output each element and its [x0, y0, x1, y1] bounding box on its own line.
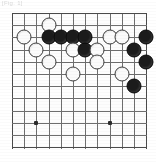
- grid-line-horizontal: [12, 98, 147, 99]
- grid-line-horizontal: [12, 135, 147, 136]
- grid-line-horizontal: [12, 147, 147, 148]
- black-stone[interactable]: [127, 42, 142, 57]
- white-stone[interactable]: [114, 30, 129, 45]
- white-stone[interactable]: [17, 30, 32, 45]
- hoshi-point: [108, 121, 112, 125]
- grid-line-horizontal: [12, 123, 147, 124]
- white-stone[interactable]: [90, 54, 105, 69]
- white-stone[interactable]: [41, 54, 56, 69]
- figure-caption: [Fig. 1]: [2, 0, 23, 6]
- black-stone[interactable]: [127, 79, 142, 94]
- white-stone[interactable]: [114, 67, 129, 82]
- grid-line-vertical: [36, 13, 37, 149]
- black-stone[interactable]: [139, 30, 154, 45]
- grid-line-vertical: [12, 13, 13, 149]
- grid-line-horizontal: [12, 25, 147, 26]
- grid-line-horizontal: [12, 13, 147, 14]
- white-stone[interactable]: [29, 42, 44, 57]
- grid-line-horizontal: [12, 62, 147, 63]
- black-stone[interactable]: [139, 54, 154, 69]
- diagram-page: [Fig. 1]: [0, 0, 156, 162]
- grid-line-horizontal: [12, 111, 147, 112]
- go-board[interactable]: [12, 13, 147, 149]
- hoshi-point: [34, 121, 38, 125]
- grid-line-vertical: [97, 13, 98, 149]
- white-stone[interactable]: [66, 67, 81, 82]
